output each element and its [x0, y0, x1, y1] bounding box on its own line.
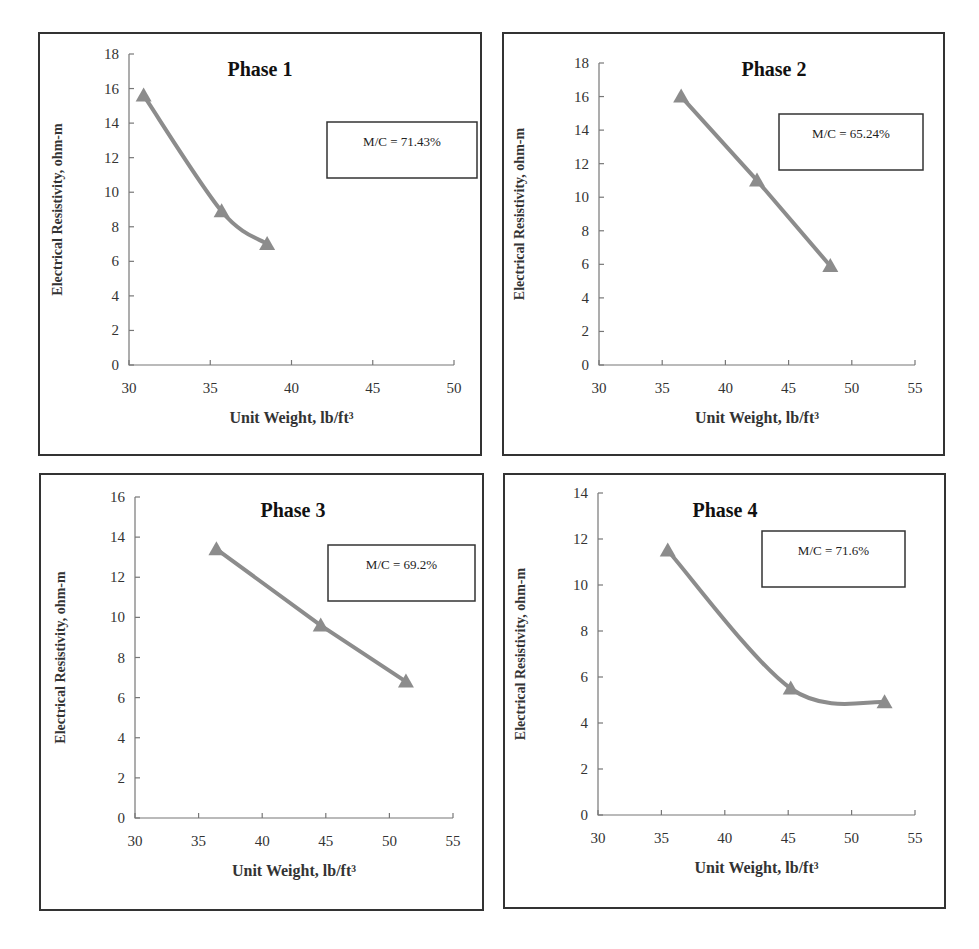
y-tick-label: 18 — [574, 55, 589, 71]
y-tick-label: 2 — [112, 322, 120, 338]
chart-title: Phase 3 — [261, 499, 326, 521]
y-tick-label: 12 — [573, 531, 588, 547]
y-tick-label: 2 — [582, 323, 590, 339]
triangle-marker-icon — [673, 89, 689, 103]
y-tick-label: 18 — [104, 46, 119, 62]
y-tick-label: 12 — [104, 150, 119, 166]
x-tick-label: 30 — [592, 380, 607, 396]
y-tick-label: 12 — [574, 156, 589, 172]
y-tick-label: 0 — [118, 810, 126, 826]
triangle-marker-icon — [208, 541, 224, 555]
x-tick-label: 35 — [655, 380, 670, 396]
y-tick-label: 0 — [582, 357, 590, 373]
x-tick-label: 35 — [203, 380, 218, 396]
moisture-content-label: M/C = 65.24% — [812, 126, 890, 141]
y-axis-label: Electrical Resistivity, ohm-m — [512, 128, 527, 301]
annotation-box — [762, 531, 905, 587]
y-tick-label: 4 — [118, 730, 126, 746]
y-tick-label: 14 — [110, 529, 126, 545]
y-tick-label: 4 — [582, 290, 590, 306]
y-tick-label: 10 — [110, 609, 125, 625]
x-axis-label: Unit Weight, lb/ft³ — [229, 409, 353, 427]
moisture-content-label: M/C = 71.6% — [798, 543, 869, 558]
x-tick-label: 50 — [382, 833, 397, 849]
y-axis-label: Electrical Resistivity, ohm-m — [53, 571, 68, 744]
chart-panel-1: 0246810121416183035404550Phase 1Unit Wei… — [38, 32, 482, 456]
triangle-marker-icon — [136, 87, 152, 101]
y-tick-label: 6 — [112, 253, 120, 269]
chart-svg: 0246810121416303540455055Phase 3Unit Wei… — [41, 475, 486, 913]
y-tick-label: 10 — [104, 184, 119, 200]
x-tick-label: 45 — [781, 380, 796, 396]
y-tick-label: 2 — [118, 770, 126, 786]
x-tick-label: 40 — [717, 830, 732, 846]
y-tick-label: 14 — [573, 485, 589, 501]
y-axis-label: Electrical Resistivity, ohm-m — [50, 123, 65, 296]
chart-svg: 024681012141618303540455055Phase 2Unit W… — [504, 34, 947, 458]
y-tick-label: 14 — [574, 122, 590, 138]
data-line — [144, 95, 268, 244]
moisture-content-label: M/C = 71.43% — [363, 134, 441, 149]
chart-svg: 0246810121416183035404550Phase 1Unit Wei… — [40, 34, 484, 458]
annotation-box — [779, 114, 923, 170]
chart-title: Phase 4 — [693, 499, 758, 521]
x-tick-label: 55 — [446, 833, 461, 849]
y-tick-label: 10 — [574, 189, 589, 205]
x-tick-label: 40 — [718, 380, 733, 396]
x-tick-label: 30 — [128, 833, 143, 849]
y-tick-label: 6 — [581, 669, 589, 685]
chart-svg: 02468101214303540455055Phase 4Unit Weigh… — [505, 475, 948, 911]
x-tick-label: 35 — [654, 830, 669, 846]
y-tick-label: 8 — [118, 650, 126, 666]
annotation-box — [327, 122, 477, 178]
y-tick-label: 6 — [118, 690, 126, 706]
y-axis-label: Electrical Resistivity, ohm-m — [513, 568, 528, 741]
y-tick-label: 12 — [110, 569, 125, 585]
chart-panel-4: 02468101214303540455055Phase 4Unit Weigh… — [503, 473, 946, 909]
y-tick-label: 0 — [581, 807, 589, 823]
x-tick-label: 30 — [591, 830, 606, 846]
annotation-box — [328, 545, 475, 601]
x-axis-label: Unit Weight, lb/ft³ — [694, 859, 818, 877]
x-tick-label: 30 — [122, 380, 137, 396]
chart-panel-2: 024681012141618303540455055Phase 2Unit W… — [502, 32, 945, 456]
chart-title: Phase 1 — [228, 58, 293, 80]
x-axis-label: Unit Weight, lb/ft³ — [695, 409, 819, 427]
x-tick-label: 50 — [447, 380, 462, 396]
y-tick-label: 6 — [582, 256, 590, 272]
chart-panel-3: 0246810121416303540455055Phase 3Unit Wei… — [39, 473, 484, 911]
x-tick-label: 45 — [781, 830, 796, 846]
axes — [599, 63, 915, 365]
y-tick-label: 8 — [581, 623, 589, 639]
x-tick-label: 50 — [844, 830, 859, 846]
y-tick-label: 10 — [573, 577, 588, 593]
triangle-marker-icon — [660, 543, 676, 557]
y-tick-label: 16 — [110, 489, 126, 505]
x-tick-label: 50 — [844, 380, 859, 396]
y-tick-label: 4 — [112, 288, 120, 304]
y-tick-label: 14 — [104, 115, 120, 131]
x-tick-label: 35 — [191, 833, 206, 849]
x-axis-label: Unit Weight, lb/ft³ — [232, 862, 356, 880]
y-tick-label: 0 — [112, 357, 120, 373]
x-tick-label: 40 — [284, 380, 299, 396]
chart-title: Phase 2 — [742, 58, 807, 80]
x-tick-label: 55 — [908, 830, 923, 846]
x-tick-label: 45 — [318, 833, 333, 849]
moisture-content-label: M/C = 69.2% — [366, 557, 437, 572]
axes — [129, 54, 454, 365]
x-tick-label: 45 — [365, 380, 380, 396]
x-tick-label: 40 — [255, 833, 270, 849]
y-tick-label: 16 — [574, 89, 590, 105]
x-tick-label: 55 — [908, 380, 923, 396]
y-tick-label: 8 — [582, 223, 590, 239]
y-tick-label: 2 — [581, 761, 589, 777]
y-tick-label: 16 — [104, 81, 120, 97]
y-tick-label: 4 — [581, 715, 589, 731]
y-tick-label: 8 — [112, 219, 120, 235]
